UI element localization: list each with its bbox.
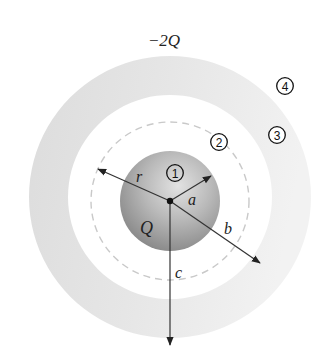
svg-text:1: 1 [172, 167, 179, 181]
gauss-law-diagram: −2Q r a b c Q 1 2 3 4 [0, 0, 327, 363]
label-c: c [175, 264, 182, 281]
region-badge-3: 3 [269, 127, 286, 144]
label-charge-q: Q [140, 218, 153, 238]
svg-text:2: 2 [216, 136, 223, 150]
svg-text:4: 4 [282, 80, 289, 94]
label-b: b [224, 220, 232, 237]
region-badge-4: 4 [277, 78, 294, 95]
center-dot [167, 198, 173, 204]
region-badge-2: 2 [211, 134, 228, 151]
label-a: a [188, 191, 196, 208]
shell-charge-label: −2Q [148, 31, 180, 50]
svg-text:3: 3 [274, 129, 281, 143]
label-r: r [136, 168, 143, 185]
